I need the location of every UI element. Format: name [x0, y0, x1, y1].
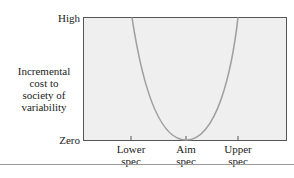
- x-tick-line: Lower: [106, 143, 156, 155]
- plot-frame: [84, 18, 287, 141]
- x-tick-line: Upper: [213, 143, 263, 155]
- x-tick-line: spec: [106, 155, 156, 167]
- x-tick-line: Aim: [161, 143, 211, 155]
- x-tick-line: spec: [161, 155, 211, 167]
- bottom-rule-divider: [0, 164, 294, 165]
- x-tick-line: spec: [213, 155, 263, 167]
